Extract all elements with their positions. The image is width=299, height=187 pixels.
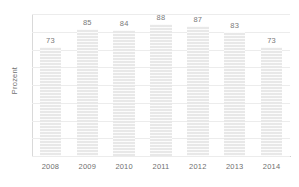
bar-chart: Prozent 73858488878373 20082009201020112…	[0, 0, 299, 187]
bar-group[interactable]: 88	[150, 14, 171, 156]
bar-group[interactable]: 84	[113, 14, 134, 156]
bar-value-label: 85	[83, 18, 92, 27]
bar-value-label: 83	[230, 21, 239, 30]
bar-value-label: 88	[157, 13, 166, 22]
x-axis-tick-label: 2010	[106, 162, 143, 171]
bar-group[interactable]: 85	[77, 14, 98, 156]
bar-value-label: 84	[120, 19, 129, 28]
bar[interactable]	[187, 26, 208, 156]
x-axis-tick-label: 2014	[253, 162, 290, 171]
bar-series: 73858488878373	[32, 14, 290, 156]
bar[interactable]	[150, 24, 171, 156]
bar-group[interactable]: 73	[40, 14, 61, 156]
x-axis-tick-label: 2011	[143, 162, 180, 171]
x-axis-tick-label: 2009	[69, 162, 106, 171]
y-axis-title: Prozent	[0, 0, 30, 160]
y-axis-title-label: Prozent	[11, 66, 20, 93]
bar[interactable]	[40, 47, 61, 156]
plot-area: 73858488878373	[32, 14, 290, 156]
x-axis-tick-label: 2012	[179, 162, 216, 171]
bar[interactable]	[224, 32, 245, 156]
x-axis-tick-label: 2013	[216, 162, 253, 171]
gridline	[32, 156, 290, 157]
bar-value-label: 73	[267, 36, 276, 45]
bar[interactable]	[261, 47, 282, 156]
bar[interactable]	[113, 30, 134, 156]
x-axis-tick-label: 2008	[32, 162, 69, 171]
bar-group[interactable]: 83	[224, 14, 245, 156]
bar[interactable]	[77, 29, 98, 156]
bar-group[interactable]: 73	[261, 14, 282, 156]
bar-group[interactable]: 87	[187, 14, 208, 156]
bar-value-label: 87	[193, 15, 202, 24]
bar-value-label: 73	[46, 36, 55, 45]
x-axis-labels: 2008200920102011201220132014	[32, 162, 290, 180]
